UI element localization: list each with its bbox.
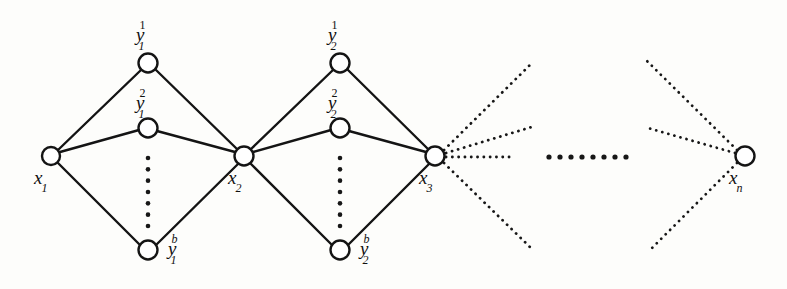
graph-edge	[348, 70, 429, 150]
vertical-ellipsis-dot	[338, 224, 343, 229]
node-label-y2-2: y22	[328, 92, 348, 116]
node-label-x2: x2	[228, 168, 242, 191]
graph-node-y1_b[interactable]	[139, 241, 158, 260]
graph-edge	[58, 163, 140, 245]
horizontal-ellipsis-dot	[612, 154, 617, 159]
horizontal-ellipsis-dot	[546, 154, 551, 159]
vertical-ellipsis-dot	[338, 201, 343, 206]
graph-node-y1_1[interactable]	[139, 54, 158, 73]
vertical-ellipsis-dot	[338, 190, 343, 195]
graph-node-x1[interactable]	[42, 147, 60, 165]
horizontal-ellipsis-dot	[557, 154, 562, 159]
graph-edge	[60, 130, 139, 152]
vertical-ellipsis-dot	[338, 178, 343, 183]
graph-edge	[250, 70, 333, 150]
vertical-ellipsis-dot	[146, 190, 151, 195]
graph-edge	[156, 70, 238, 150]
horizontal-ellipsis-dot	[601, 154, 606, 159]
node-label-xn: xn	[729, 168, 743, 191]
vertical-ellipsis-dot	[146, 156, 151, 161]
graph-edge	[253, 130, 331, 152]
horizontal-ellipsis-dot	[579, 154, 584, 159]
vertical-ellipsis-dot	[338, 167, 343, 172]
vertical-ellipsis-dot	[146, 178, 151, 183]
vertical-ellipsis-dot	[146, 212, 151, 217]
ellipsis-dots-layer	[146, 154, 629, 228]
vertical-ellipsis-dot	[146, 167, 151, 172]
graph-canvas	[0, 0, 787, 289]
vertical-ellipsis-dot	[338, 212, 343, 217]
graph-node-y2_1[interactable]	[331, 54, 350, 73]
graph-node-y2_2[interactable]	[331, 119, 350, 138]
graph-edge-dotted	[444, 163, 533, 250]
graph-edge	[348, 164, 429, 245]
graph-figure: x1x2x3xny11y21yb1y12y22yb2	[0, 0, 787, 289]
graph-edge	[250, 163, 332, 245]
graph-edge-dotted	[648, 128, 735, 153]
node-label-y2-1: y12	[328, 24, 348, 48]
vertical-ellipsis-dot	[146, 201, 151, 206]
graph-edge-dotted	[444, 62, 533, 150]
horizontal-ellipsis-dot	[623, 154, 628, 159]
vertical-ellipsis-dot	[146, 224, 151, 229]
node-label-y1-1: y11	[136, 24, 156, 48]
graph-node-y1_2[interactable]	[139, 119, 158, 138]
horizontal-ellipsis-dot	[568, 154, 573, 159]
graph-edge-dotted	[647, 61, 737, 150]
node-label-x3: x3	[419, 168, 433, 191]
graph-edge-dotted	[650, 163, 737, 250]
graph-node-xn[interactable]	[736, 147, 755, 166]
graph-edge	[58, 70, 141, 150]
node-label-y1-b: yb1	[168, 238, 188, 262]
graph-node-x3[interactable]	[426, 147, 445, 166]
graph-edge	[156, 164, 238, 245]
graph-edge-dotted	[446, 126, 535, 153]
vertical-ellipsis-dot	[338, 156, 343, 161]
horizontal-ellipsis-dot	[590, 154, 595, 159]
node-label-x1: x1	[34, 168, 48, 191]
dotted-edge-layer	[444, 61, 737, 250]
node-label-y1-2: y21	[136, 92, 156, 116]
graph-node-x2[interactable]	[235, 147, 254, 166]
node-label-y2-b: yb2	[360, 238, 380, 262]
graph-node-y2_b[interactable]	[331, 241, 350, 260]
